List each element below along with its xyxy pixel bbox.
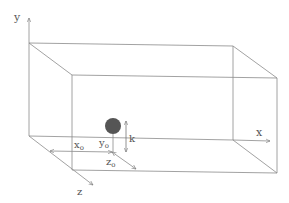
x-axis-label: x [256, 126, 263, 139]
z0-label: zo [106, 156, 116, 169]
sphere [105, 118, 121, 134]
x-axis [233, 140, 270, 141]
box-diagram: y x z xo yo zo k [0, 0, 289, 203]
x0-label: xo [74, 139, 84, 152]
y-axis-label: y [13, 11, 21, 24]
k-label: k [129, 133, 136, 144]
y0-label: yo [98, 137, 109, 150]
z0-dimension-line [112, 152, 136, 169]
back-face [29, 43, 233, 140]
z-axis-label: z [77, 186, 82, 197]
front-face [72, 75, 277, 173]
depth-edges [29, 43, 277, 173]
